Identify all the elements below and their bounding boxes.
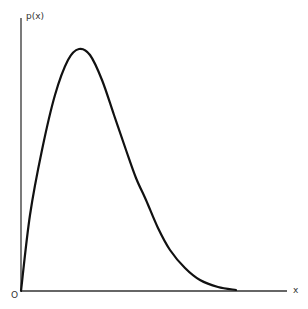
y-axis-label: p(x) xyxy=(26,11,44,21)
origin-label: O xyxy=(11,290,18,300)
density-plot xyxy=(0,0,308,309)
x-axis-label: x xyxy=(293,285,298,295)
density-curve xyxy=(21,49,236,291)
